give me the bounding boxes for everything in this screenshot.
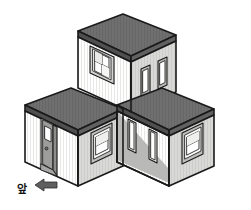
- window-top-right-narrow-2: [158, 57, 167, 89]
- door-left-entry[interactable]: [41, 118, 57, 176]
- window-right-left-narrow-2: [149, 129, 157, 163]
- door-swing-side: [53, 125, 57, 176]
- door-glass: [45, 126, 51, 142]
- door-handle[interactable]: [45, 147, 48, 150]
- figure-canvas: 앞: [0, 0, 251, 210]
- direction-label: 앞: [17, 183, 27, 196]
- isometric-building-drawing: 앞: [0, 0, 251, 210]
- window-right-left-narrow-1: [128, 119, 136, 153]
